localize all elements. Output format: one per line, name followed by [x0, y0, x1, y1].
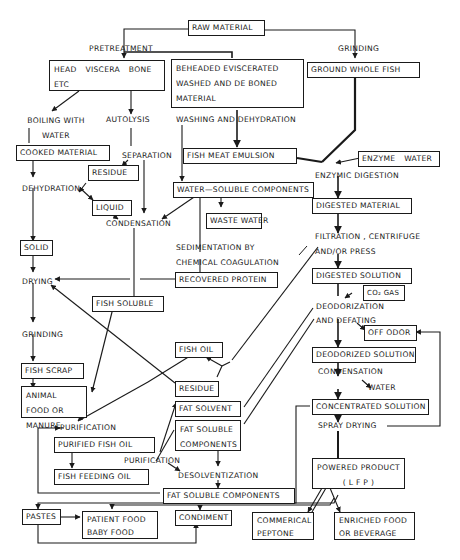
node-concentrated-solution: CONCENTRATED SOLUTION	[312, 399, 429, 415]
node-digested-solution: DIGESTED SOLUTION	[312, 268, 412, 284]
node-solid: SOLID	[20, 240, 53, 256]
node-co2-gas: CO₂ GAS	[363, 285, 405, 301]
node-liquid: LIQUID	[92, 200, 132, 216]
node-purified-fish-oil: PURIFIED FISH OIL	[54, 437, 155, 453]
label-washing-dehydration: WASHING AND DEHYDRATION	[176, 114, 296, 125]
node-fish-scrap: FISH SCRAP	[21, 363, 84, 379]
node-patient-food: PATIENT FOOD BABY FOOD	[82, 511, 158, 539]
node-raw-material: RAW MATERIAL	[188, 20, 265, 36]
node-fish-oil: FISH OIL	[175, 342, 223, 358]
node-enzyme-water: ENZYME WATER	[358, 151, 440, 167]
label-desolventization: DESOLVENTIZATION	[178, 470, 259, 481]
label-sedimentation: SEDIMENTATION BY CHEMICAL COAGULATION	[176, 240, 286, 270]
label-filtration: FILTRATION , CENTRIFUGE	[315, 231, 420, 242]
node-enriched-food: ENRICHED FOOD OR BEVERAGE	[334, 512, 415, 540]
node-waste-water: WASTE WATER	[206, 213, 262, 229]
label-condensation-right: CONDENSATION	[318, 366, 383, 377]
label-pretreatment: PRETREATMENT	[89, 43, 153, 54]
label-and-or-press: AND/OR PRESS	[315, 246, 376, 257]
node-digested-material: DIGESTED MATERIAL	[312, 198, 412, 214]
label-purification-center: PURIFICATION	[124, 455, 180, 466]
label-deodorization: DEODORIZATION	[316, 301, 384, 312]
node-off-odor: OFF ODOR	[364, 325, 417, 341]
node-deodorized-solution: DEODORIZED SOLUTION	[312, 347, 416, 363]
node-fish-meat-emulsion: FISH MEAT EMULSION	[183, 148, 297, 164]
label-separation: SEPARATION	[122, 150, 172, 161]
node-condiment: CONDIMENT	[175, 510, 232, 526]
node-pastes: PASTES	[22, 509, 61, 525]
label-grinding-top: GRINDING	[338, 43, 379, 54]
label-boiling-with-water: BOILING WITH WATER	[20, 113, 92, 143]
node-residue-top: RESIDUE	[88, 165, 139, 181]
label-water: WATER	[368, 382, 396, 393]
node-fish-soluble: FISH SOLUBLE	[92, 296, 164, 312]
label-grinding-bottom: GRINDING	[22, 329, 63, 340]
label-condensation-left: CONDENSATION	[106, 218, 171, 229]
node-water-soluble-components: WATER—SOLUBLE COMPONENTS	[173, 182, 314, 198]
powered-product-title: POWERED PRODUCT	[317, 463, 400, 472]
label-enzymic-digestion: ENZYMIC DIGESTION	[315, 170, 399, 181]
label-autolysis: AUTOLYSIS	[106, 114, 150, 125]
label-and-defating: AND DEFATING	[316, 315, 376, 326]
node-cooked-material: COOKED MATERIAL	[16, 145, 110, 161]
node-commercial-peptone: COMMERICAL PEPTONE	[252, 512, 314, 540]
label-spray-drying: SPRAY DRYING	[318, 420, 377, 431]
label-purification-left: PURIFICATION	[60, 422, 116, 433]
node-fish-feeding-oil: FISH FEEDING OIL	[54, 469, 149, 485]
node-recovered-protein: RECOVERED PROTEIN	[175, 272, 278, 288]
node-powered-product: POWERED PRODUCT ( L F P )	[312, 458, 405, 489]
node-fat-soluble-components-lower: FAT SOLUBLE COMPONENTS	[163, 488, 295, 504]
fish-processing-flowchart: RAW MATERIAL HEAD VISCERA BONE ETC BEHEA…	[0, 0, 460, 560]
node-animal-food: ANIMAL FOOD OR MANURE	[21, 386, 87, 418]
label-dehydration: DEHYDRATION	[22, 183, 80, 194]
powered-product-abbr: ( L F P )	[343, 478, 374, 487]
node-ground-whole-fish: GROUND WHOLE FISH	[307, 62, 420, 78]
node-beheaded-material: BEHEADED EVISCERATED WASHED AND DE BONED…	[171, 59, 304, 108]
node-fat-soluble-components-upper: FAT SOLUBLE COMPONENTS	[175, 420, 241, 451]
node-residue-bottom: RESIDUE	[175, 381, 219, 397]
label-drying: DRYING	[22, 276, 53, 287]
node-head-viscera-bone: HEAD VISCERA BONE ETC	[49, 60, 165, 91]
node-fat-solvent: FAT SOLVENT	[175, 401, 241, 417]
